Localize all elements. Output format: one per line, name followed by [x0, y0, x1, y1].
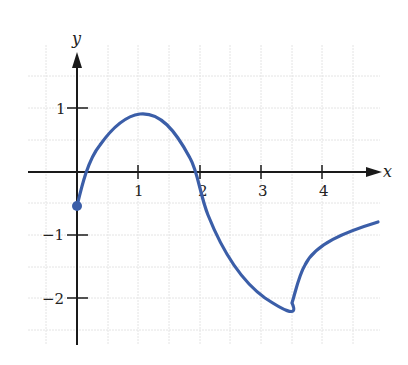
function-graph: x y 1 2 3 4 1 −1 −2: [0, 0, 408, 365]
y-tick-label-1: 1: [56, 100, 66, 118]
x-axis: [28, 165, 382, 179]
y-axis-label: y: [71, 29, 82, 48]
y-tick-label-neg1: −1: [42, 226, 64, 244]
y-axis-arrow-icon: [72, 52, 82, 68]
x-tick-label-1: 1: [134, 182, 144, 200]
y-tick-label-neg2: −2: [42, 290, 64, 308]
x-axis-label: x: [383, 162, 392, 181]
x-tick-label-3: 3: [258, 182, 268, 200]
start-point-marker: [72, 201, 82, 211]
x-tick-label-4: 4: [319, 182, 329, 200]
function-curve: [77, 114, 378, 312]
x-axis-arrow-icon: [366, 167, 382, 177]
